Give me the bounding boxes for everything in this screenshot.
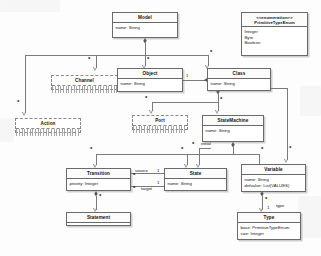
empty-compartment-hatch [52,86,117,93]
attribute-state-name: name: String [168,181,224,186]
attribute-object-name: name: String [121,81,180,86]
attribute-type-base: base: PrimitiveTypeEnum [241,225,298,230]
class-box-statemachine[interactable]: StateMachine name: String [202,115,264,142]
multiplicity-class-variable: * [289,146,291,151]
class-attributes-variable: name: String defvalue: List(VALUES) [242,175,305,190]
multiplicity-variable-type: * [265,197,267,202]
edge-transition-source [131,173,164,174]
empty-compartment-hatch [133,126,187,133]
multiplicity-sm-variable: * [261,147,263,152]
edge-object-class [183,80,208,81]
class-attributes-channel [52,86,117,93]
class-attributes-statemachine: name: String [203,126,263,136]
multiplicity-transition-statement: * [99,194,101,199]
attribute-type-size: size: Integer [241,231,298,236]
class-box-primitive-type-enum[interactable]: <<enumeration>> PrimitiveTypeEnum Intege… [241,12,308,56]
multiplicity-model-action: * [17,100,19,105]
class-attributes-transition: priority: Integer [67,179,130,189]
class-name-model: Model [113,13,177,23]
edge-sm-hub [233,147,234,154]
class-attributes-class: name: String [208,79,270,89]
arrowhead-class-statemachine [215,110,219,114]
attribute-class-name: name: String [211,81,268,86]
multiplicity-model-class: * [210,50,212,55]
class-box-class[interactable]: Class name: String [207,68,271,91]
edge-model-bus [25,55,209,56]
edge-sm-initial [199,148,200,165]
arrowhead-class-variable [284,159,288,163]
class-box-object[interactable]: Object name: String [117,68,183,92]
attribute-variable-defvalue: defvalue: List(VALUES) [245,183,303,188]
class-box-transition[interactable]: Transition priority: Integer [66,168,131,191]
scan-smudge [0,118,14,142]
scan-smudge [0,0,60,12]
class-box-statement[interactable]: Statement [66,212,131,226]
class-name-statemachine: StateMachine [203,116,263,126]
class-attributes-type: base: PrimitiveTypeEnum size: Integer [238,223,300,238]
class-name-action: Action [16,119,80,129]
empty-compartment-hatch [16,129,80,136]
class-name-channel: Channel [52,76,117,86]
multiplicity-model-object: * [147,57,149,62]
attribute-statemachine-name: name: String [206,128,261,133]
class-name-transition: Transition [67,169,130,179]
multiplicity-source-1: 1 [157,168,159,173]
class-box-state[interactable]: State name: String [164,168,227,191]
class-name-port: Port [133,116,187,126]
multiplicity-type-1: 1 [267,205,269,210]
class-attributes-action [16,129,80,136]
edge-sm-initial-h [199,148,211,149]
class-name-statement: Statement [67,213,130,223]
class-attributes-state: name: String [165,179,226,189]
class-name-variable: Variable [242,165,305,175]
multiplicity-state-out: * [133,173,135,178]
multiplicity-model-channel: * [88,57,90,62]
class-box-model[interactable]: Model name: String [112,12,178,38]
multiplicity-state-in: * [133,186,135,191]
edge-model-hub [145,43,146,55]
class-box-variable[interactable]: Variable name: String defvalue: List(VAL… [241,164,306,192]
literal-boolean: Boolean [245,40,305,45]
edge-class-hub [218,94,219,102]
class-title-primitive-type-enum: PrimitiveTypeEnum [243,20,306,25]
class-attributes-object: name: String [118,79,182,89]
scan-smudge [300,86,321,116]
class-name-primitive-type-enum: <<enumeration>> PrimitiveTypeEnum [242,13,307,27]
class-box-type[interactable]: Type base: PrimitiveTypeEnum size: Integ… [237,212,301,240]
edge-class-variable [287,88,288,160]
arrowhead-model-channel [93,67,97,71]
class-name-class: Class [208,69,270,79]
uml-class-diagram-canvas: * * * * 1 * * * * * initial * * [0,0,321,256]
arrowhead-model-action [22,112,26,116]
attribute-transition-priority: priority: Integer [70,181,128,186]
role-target: target [141,186,152,191]
edge-class-bus [152,102,218,103]
class-attributes-model: name: String [113,23,177,33]
multiplicity-sm-state: * [181,147,183,152]
class-name-type: Type [238,213,300,223]
class-box-channel[interactable]: Channel [51,75,118,90]
class-box-action[interactable]: Action [15,118,81,133]
scan-smudge [298,196,321,238]
role-source: source [135,168,148,173]
class-name-object: Object [118,69,182,79]
attribute-model-name: name: String [116,25,175,30]
edge-model-action [25,55,26,113]
multiplicity-object-class: 1 [186,73,188,78]
multiplicity-target-1: 1 [157,180,159,185]
multiplicity-sm-transition: * [90,147,92,152]
class-box-port[interactable]: Port [132,115,188,130]
multiplicity-class-statemachine: * [220,97,222,102]
multiplicity-class-port: * [145,96,147,101]
class-name-state: State [165,169,226,179]
role-type: type [276,203,284,208]
multiplicity-sm-initial: * [192,142,194,147]
arrowhead-class-port [149,110,153,114]
class-attributes-port [133,126,187,133]
edge-sm-bus [96,154,259,155]
class-literals-primitive-type-enum: Integer Byte Boolean [242,27,307,48]
